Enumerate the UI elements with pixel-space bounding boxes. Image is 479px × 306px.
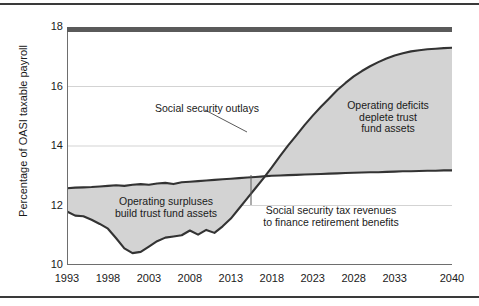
y-axis-tick-label: 18 xyxy=(37,21,63,32)
x-axis-tick-label: 2033 xyxy=(371,272,419,284)
chart-figure: Percentage of OASI taxable payroll 10121… xyxy=(0,0,479,306)
bottom-divider-rule xyxy=(0,296,479,298)
top-divider-rule xyxy=(0,3,479,5)
annotation-operating-surpluses: Operating surpluses build trust fund ass… xyxy=(96,196,236,219)
chart-canvas xyxy=(67,27,452,265)
annotation-social-security-outlays: Social security outlays xyxy=(155,103,275,115)
annotation-social-security-tax-revenues: Social security tax revenues to finance … xyxy=(246,205,416,228)
x-axis-tick-label: 2040 xyxy=(428,272,476,284)
annotation-operating-deficits: Operating deficits deplete trust fund as… xyxy=(336,100,440,135)
y-axis-tick-label: 12 xyxy=(37,200,63,211)
y-axis-tick-label: 10 xyxy=(37,259,63,270)
y-axis-tick-label: 16 xyxy=(37,81,63,92)
y-axis-title: Percentage of OASI taxable payroll xyxy=(17,26,29,236)
y-axis-tick-labels: 1012141618 xyxy=(33,0,63,306)
plot-area xyxy=(67,27,452,265)
y-axis-tick-label: 14 xyxy=(37,140,63,151)
